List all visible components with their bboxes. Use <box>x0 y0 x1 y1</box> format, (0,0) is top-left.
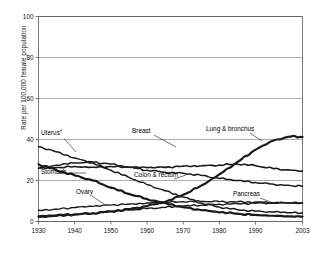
y-tick-label-100: 100 <box>23 13 34 20</box>
x-tick-label-1990: 1990 <box>248 227 263 234</box>
breast-label: Breast <box>132 127 151 134</box>
y-tick-label-60: 60 <box>26 95 34 102</box>
x-tick-label-2003: 2003 <box>295 227 310 234</box>
x-tick-label-1960: 1960 <box>140 227 155 234</box>
x-tick-label-1950: 1950 <box>104 227 119 234</box>
colon-label: Colon & rectum <box>134 171 178 178</box>
uterus-label: Uterus† <box>41 129 63 136</box>
y-tick-label-0: 0 <box>30 218 34 225</box>
lung-label: Lung & bronchus <box>206 125 254 133</box>
series-line-ovary <box>39 201 303 211</box>
pancreas-label: Pancreas <box>233 190 260 197</box>
x-tick-label-1930: 1930 <box>31 227 46 234</box>
uterus-leader-line <box>64 139 76 153</box>
lung-leader-line <box>250 133 262 141</box>
breast-leader-line <box>154 135 176 147</box>
ovary-leader-line <box>92 196 104 204</box>
x-tick-label-1970: 1970 <box>176 227 191 234</box>
plot-canvas: 0204060801001930194019501960197019801990… <box>0 0 320 257</box>
y-tick-label-20: 20 <box>26 177 34 184</box>
ovary-label: Ovary <box>76 188 94 196</box>
x-tick-label-1980: 1980 <box>212 227 227 234</box>
y-tick-label-40: 40 <box>26 136 34 143</box>
x-tick-label-1940: 1940 <box>68 227 83 234</box>
stomach-label: Stomach <box>41 168 67 175</box>
cancer-mortality-line-chart: Rate per 100,000 female population 02040… <box>0 0 320 257</box>
y-tick-label-80: 80 <box>26 54 34 61</box>
